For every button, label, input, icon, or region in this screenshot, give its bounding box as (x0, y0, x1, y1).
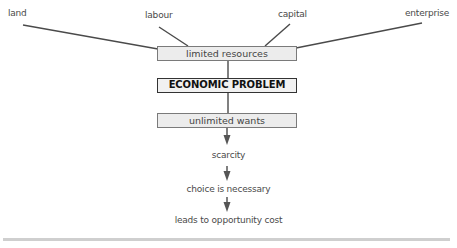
factor-label-labour: labour (145, 10, 172, 20)
bottom-divider (3, 238, 450, 241)
factor-label-enterprise: enterprise (405, 8, 449, 18)
factor-label-capital: capital (278, 9, 307, 19)
opportunity-cost-label: leads to opportunity cost (0, 215, 457, 225)
scarcity-label: scarcity (0, 150, 457, 160)
factor-label-land: land (8, 8, 27, 18)
unlimited-wants-box: unlimited wants (157, 113, 297, 128)
limited-resources-box: limited resources (157, 46, 297, 61)
economic-problem-box: ECONOMIC PROBLEM (157, 78, 297, 93)
choice-label: choice is necessary (0, 184, 457, 194)
